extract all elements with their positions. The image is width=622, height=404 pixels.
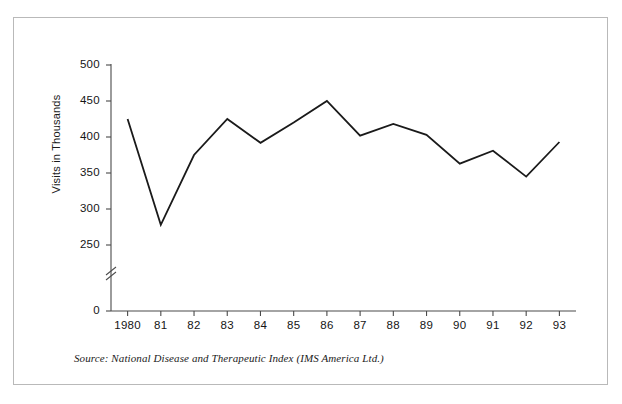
chart-figure-frame: Visits in Thousands 0250300350400450500 … — [13, 17, 608, 385]
data-series-line — [128, 101, 560, 225]
x-axis-tick-label: 82 — [187, 319, 200, 331]
x-axis-tick-label: 88 — [387, 319, 400, 331]
x-axis-tick-label: 84 — [254, 319, 267, 331]
x-axis-tick-label: 1980 — [114, 319, 141, 331]
x-axis-ticks — [128, 311, 560, 316]
y-axis-tick-label: 0 — [58, 304, 100, 316]
x-axis-tick-label: 92 — [519, 319, 532, 331]
x-axis-tick-label: 91 — [486, 319, 499, 331]
x-axis-tick-label: 86 — [320, 319, 333, 331]
x-axis-tick-label: 83 — [221, 319, 234, 331]
x-axis-tick-label: 89 — [420, 319, 433, 331]
y-axis-tick-label: 450 — [58, 94, 100, 106]
source-note: Source: National Disease and Therapeutic… — [74, 352, 384, 364]
y-axis-tick-label: 400 — [58, 130, 100, 142]
x-axis-tick-label: 90 — [453, 319, 466, 331]
y-axis-tick-label: 500 — [58, 58, 100, 70]
y-axis-tick-label: 300 — [58, 202, 100, 214]
y-axis-tick-label: 350 — [58, 166, 100, 178]
x-axis-tick-label: 93 — [553, 319, 566, 331]
plot-area: Visits in Thousands 0250300350400450500 … — [14, 18, 609, 386]
y-axis-tick-label: 250 — [58, 238, 100, 250]
x-axis-tick-label: 85 — [287, 319, 300, 331]
x-axis-tick-label: 81 — [154, 319, 167, 331]
x-axis-tick-label: 87 — [353, 319, 366, 331]
